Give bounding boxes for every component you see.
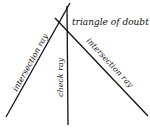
check-ray: [67, 6, 68, 125]
left-ray-label: intersection ray: [11, 32, 50, 93]
triangle-of-doubt-diagram: triangle of doubt intersection ray check…: [0, 0, 150, 131]
triangle-of-doubt-label: triangle of doubt: [72, 17, 149, 27]
right-ray-label: intersection ray: [85, 36, 136, 89]
right-intersection-ray: [55, 18, 148, 116]
check-ray-label: check ray: [56, 57, 65, 97]
